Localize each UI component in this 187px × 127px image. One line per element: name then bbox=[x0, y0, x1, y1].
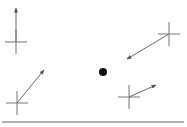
central-dot bbox=[99, 68, 107, 76]
vector-arrow-icon bbox=[129, 85, 156, 97]
vector-arrow-icon bbox=[17, 70, 44, 103]
vector-diagram bbox=[0, 0, 187, 127]
diagram-layer bbox=[2, 8, 184, 122]
position-marker bbox=[5, 8, 27, 54]
position-marker bbox=[127, 22, 180, 59]
position-marker bbox=[6, 70, 44, 115]
position-marker bbox=[118, 85, 156, 109]
vector-arrow-icon bbox=[127, 34, 169, 59]
